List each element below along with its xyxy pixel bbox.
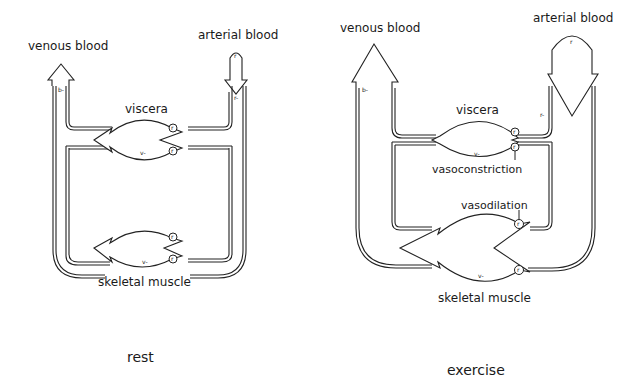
arterial-trunk-pipe bbox=[188, 86, 246, 278]
r-marker: r- bbox=[540, 111, 544, 118]
arterial-inflow-arrow: r bbox=[225, 52, 247, 94]
rest-caption: rest bbox=[127, 349, 154, 365]
skeletal-muscle-bed: r r v- bbox=[400, 210, 530, 281]
arterial-trunk-pipe bbox=[518, 86, 595, 271]
viscera-bed: r r v- bbox=[94, 120, 182, 160]
vasodilation-label: vasodilation bbox=[461, 199, 528, 212]
rest-panel: r r r v- r r v- bbox=[28, 28, 278, 365]
vasoconstriction-label: vasoconstriction bbox=[432, 163, 522, 176]
v-marker: v- bbox=[142, 258, 148, 265]
viscera-bed: r r v- bbox=[432, 121, 519, 160]
arterial-inflow-arrow: r bbox=[548, 36, 598, 116]
viscera-label: viscera bbox=[125, 102, 168, 116]
circulation-diagram: r r r v- r r v- bbox=[0, 0, 632, 386]
b-marker: b- bbox=[362, 86, 368, 93]
r-marker: r- bbox=[234, 94, 238, 101]
venous-blood-label: venous blood bbox=[28, 39, 108, 53]
exercise-panel: r r r v- r r v- bbox=[340, 11, 613, 378]
venous-outflow-arrow bbox=[48, 64, 74, 86]
skeletal-muscle-label: skeletal muscle bbox=[438, 291, 531, 305]
venous-outflow-arrow bbox=[352, 44, 398, 88]
exercise-caption: exercise bbox=[447, 362, 505, 378]
venous-blood-label: venous blood bbox=[340, 21, 420, 35]
arterial-blood-label: arterial blood bbox=[533, 11, 613, 25]
b-marker: b- bbox=[58, 86, 64, 93]
skeletal-muscle-label: skeletal muscle bbox=[98, 275, 191, 289]
viscera-label: viscera bbox=[456, 103, 499, 117]
arterial-blood-label: arterial blood bbox=[198, 28, 278, 42]
v-marker: v- bbox=[140, 149, 146, 156]
v-marker: v- bbox=[478, 272, 484, 279]
v-marker: v- bbox=[474, 150, 480, 157]
